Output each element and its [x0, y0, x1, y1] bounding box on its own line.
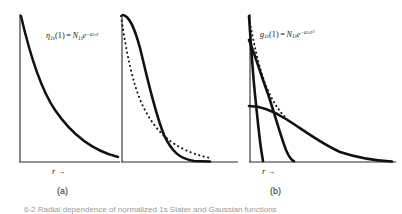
figure-caption-partial: 6-2 Radial dependence of normalized 1s S… — [24, 205, 354, 214]
panel-c: χ1s(1)=3∑i=1(e−air2)·di1s r→ (c) — [240, 0, 402, 200]
panel-c-primitive-narrow — [249, 16, 263, 161]
panel-a-letter: (a) — [57, 186, 68, 196]
panel-a-x-axis-label: r→ — [52, 166, 65, 176]
panel-a-formula: η1s(1)=N1se−a1sr — [46, 32, 99, 41]
figure-container: η1s(1)=N1se−a1sr r→ (a) g1s(1)=N1se−a1sr… — [0, 0, 402, 214]
panel-b: g1s(1)=N1se−a1sr2 r→ (b) — [110, 0, 255, 200]
panel-c-plot — [240, 0, 402, 200]
panel-c-primitive-broad — [249, 106, 392, 162]
panel-c-envelope-dashed — [249, 18, 286, 118]
panel-b-plot — [110, 0, 255, 200]
